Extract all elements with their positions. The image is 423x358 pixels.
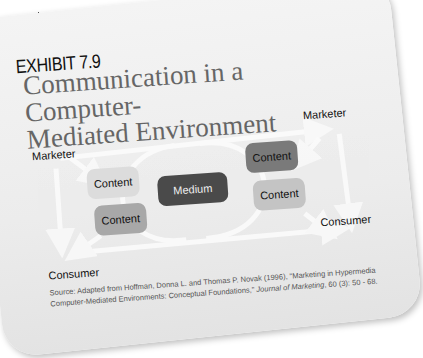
medium-box: Medium [157,172,229,207]
content-box-left-bottom: Content [94,203,148,237]
content-box-right-bottom: Content [252,177,306,211]
content-box-left-top: Content [86,166,140,200]
exhibit-content: EXHIBIT 7.9 Communication in a Computer-… [0,0,384,325]
content-box-right-top: Content [245,140,299,174]
